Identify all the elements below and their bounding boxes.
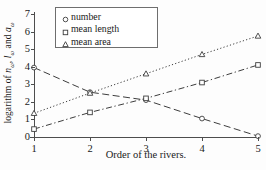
x-axis-tick-mark (258, 137, 259, 141)
y-axis-tick-label: 4 (25, 61, 30, 72)
legend: numbermean lengthmean area (55, 7, 158, 48)
y-axis-tick-mark (31, 14, 35, 15)
y-axis-tick-label: 2 (25, 97, 30, 108)
data-point-marker (255, 33, 261, 38)
triangle-marker-icon (60, 36, 71, 47)
y-axis-tick-mark (31, 67, 35, 68)
y-axis-tick-labels: 01234567 (18, 0, 32, 145)
y-axis-tick-mark (31, 49, 35, 50)
data-point-marker (200, 80, 205, 85)
x-axis-tick-mark (34, 137, 35, 141)
data-point-marker (32, 127, 37, 132)
x-axis-line (30, 137, 258, 138)
square-marker-icon (60, 24, 71, 35)
circle-marker-icon (60, 11, 71, 22)
data-point-marker (144, 96, 149, 101)
chart-figure: logarithm of nω, lω and aω 01234567 1234… (0, 0, 266, 170)
y-axis-tick-mark (31, 32, 35, 33)
y-axis-tick-label: 5 (25, 44, 30, 55)
data-point-marker (256, 63, 261, 68)
x-axis-tick-mark (146, 137, 147, 141)
legend-item: number (60, 11, 157, 23)
x-axis-tick-mark (90, 137, 91, 141)
legend-item-label: mean area (71, 37, 111, 47)
data-point-marker (199, 52, 205, 57)
legend-item: mean area (60, 36, 157, 48)
data-point-marker (143, 71, 149, 76)
y-axis-tick-label: 6 (25, 26, 30, 37)
y-axis-title-container: logarithm of nω, lω and aω (0, 0, 18, 145)
y-axis-tick-label: 3 (25, 79, 30, 90)
x-axis-tick-mark (202, 137, 203, 141)
y-axis-tick-label: 1 (25, 114, 30, 125)
y-axis-tick-label: 7 (25, 9, 30, 20)
y-axis-tick-mark (31, 84, 35, 85)
data-point-marker (200, 116, 205, 121)
y-axis-tick-mark (31, 119, 35, 120)
x-axis-title: Order of the rivers. (34, 149, 258, 160)
y-axis-title: logarithm of nω, lω and aω (3, 22, 15, 123)
data-point-marker (31, 110, 37, 115)
data-point-marker (88, 110, 93, 115)
legend-item-label: mean length (71, 24, 119, 34)
y-axis-tick-mark (31, 102, 35, 103)
legend-item: mean length (60, 23, 157, 35)
legend-item-label: number (71, 12, 101, 22)
